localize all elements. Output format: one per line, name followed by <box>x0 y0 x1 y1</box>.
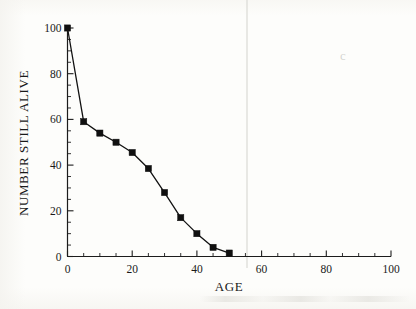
data-point-marker <box>97 130 103 136</box>
x-tick-label: 80 <box>321 263 333 275</box>
survivorship-markers <box>64 25 232 256</box>
x-axis-tick-labels: 020406080100 <box>65 263 400 275</box>
y-axis-ticks <box>68 28 74 257</box>
data-point-marker <box>81 119 87 125</box>
y-tick-label: 80 <box>50 68 62 80</box>
figure-root: c NUMBER STILL ALIVE AGE 020406080100 02… <box>0 0 416 309</box>
data-point-marker <box>145 165 151 171</box>
x-tick-label: 100 <box>382 263 400 275</box>
y-tick-label: 40 <box>50 159 62 171</box>
data-point-marker <box>226 250 232 256</box>
data-point-marker <box>194 231 200 237</box>
data-point-marker <box>161 189 167 195</box>
y-axis-tick-labels: 020406080100 <box>44 22 62 263</box>
x-tick-label: 0 <box>65 263 71 275</box>
survivorship-line <box>68 28 230 253</box>
y-tick-label: 0 <box>56 251 62 263</box>
data-point-marker <box>113 139 119 145</box>
survivorship-chart: NUMBER STILL ALIVE AGE 020406080100 0204… <box>0 0 416 309</box>
x-tick-label: 60 <box>256 263 268 275</box>
data-point-marker <box>64 25 70 31</box>
x-tick-label: 40 <box>191 263 203 275</box>
x-tick-label: 20 <box>126 263 138 275</box>
y-tick-label: 20 <box>50 205 62 217</box>
x-axis-title: AGE <box>215 279 244 294</box>
data-point-marker <box>178 215 184 221</box>
data-point-marker <box>210 244 216 250</box>
y-tick-label: 60 <box>50 113 62 125</box>
data-point-marker <box>129 149 135 155</box>
y-tick-label: 100 <box>44 22 62 34</box>
y-axis-title: NUMBER STILL ALIVE <box>16 70 31 216</box>
